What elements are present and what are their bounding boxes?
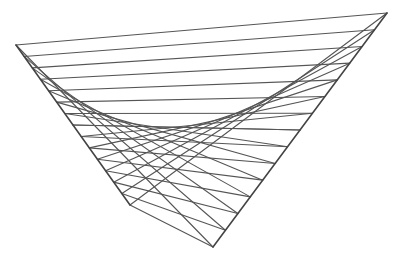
crossing-line xyxy=(24,56,225,230)
envelope-lines xyxy=(16,13,387,247)
crossing-line xyxy=(32,68,238,214)
right-guide-leg xyxy=(213,13,387,247)
crossing-line xyxy=(130,13,387,205)
crossing-line xyxy=(65,114,288,147)
envelope-line xyxy=(24,30,374,57)
envelope-line xyxy=(16,13,387,45)
crossing-line xyxy=(114,46,362,182)
string-art-parabola xyxy=(0,0,403,262)
envelope-line xyxy=(40,63,349,79)
crossing-line xyxy=(106,63,350,171)
